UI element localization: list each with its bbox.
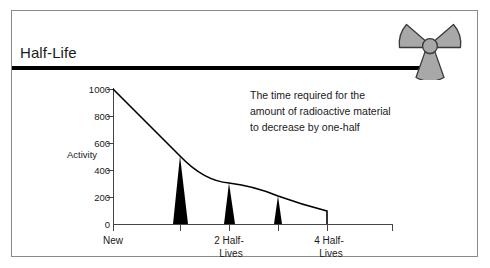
x-label-new: New (103, 235, 124, 246)
y-tick-label-0: 0 (105, 219, 110, 230)
x-label-2-half-lives-line2: Lives (219, 248, 242, 257)
x-label-4-half-lives-line1: 4 Half- (314, 235, 343, 246)
definition-line-2: amount of radioactive material (250, 105, 391, 117)
slide-canvas: Half-Life The time required for the amou… (0, 0, 490, 268)
definition-line-1: The time required for the (250, 89, 365, 101)
definition-line-3: to decrease by one-half (250, 121, 360, 133)
decay-marker-2 (224, 183, 235, 224)
y-axis-title: Activity (67, 149, 97, 160)
decay-marker-1 (173, 156, 188, 224)
x-label-4-half-lives-line2: Lives (319, 248, 342, 257)
decay-marker-3 (274, 196, 282, 224)
x-label-2-half-lives-line1: 2 Half- (214, 235, 243, 246)
y-tick-label-1000: 1000 (89, 84, 110, 95)
half-life-decay-chart: The time required for the amount of radi… (11, 10, 478, 257)
